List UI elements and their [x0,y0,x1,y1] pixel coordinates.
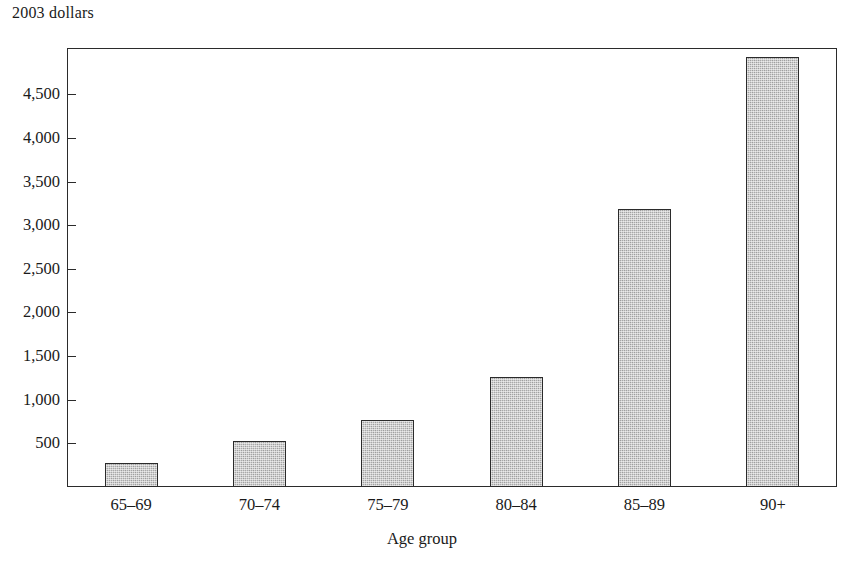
y-axis-tick-label: 4,000 [0,130,60,147]
bar-70-74 [233,441,286,487]
bars-layer [67,48,837,487]
y-axis-tick-label: 4,500 [0,86,60,103]
bar-75-79 [361,420,414,487]
y-axis-unit-caption: 2003 dollars [12,4,94,22]
y-axis-tick-label: 2,000 [0,304,60,321]
x-axis-tick-label: 85–89 [580,495,708,515]
bar-chart-figure: 2003 dollars 5001,0001,5002,0002,5003,00… [0,0,844,577]
bar-90+ [746,57,799,487]
x-axis-tick-label: 70–74 [195,495,323,515]
bar-65-69 [105,463,158,487]
y-axis-tick-label: 3,500 [0,173,60,190]
bar-85-89 [618,209,671,487]
y-axis-tick-label: 2,500 [0,261,60,278]
y-axis-tick-label: 3,000 [0,217,60,234]
x-axis-tick-label: 80–84 [452,495,580,515]
bar-80-84 [490,377,543,487]
y-axis-tick-label: 1,000 [0,391,60,408]
y-axis-tick-label: 500 [0,435,60,452]
x-axis-tick-labels: 65–6970–7475–7980–8485–8990+ [67,495,837,521]
x-axis-tick-label: 75–79 [324,495,452,515]
x-axis-title: Age group [0,529,844,549]
x-axis-tick-label: 90+ [709,495,837,515]
x-axis-tick-label: 65–69 [67,495,195,515]
y-axis-tick-label: 1,500 [0,348,60,365]
